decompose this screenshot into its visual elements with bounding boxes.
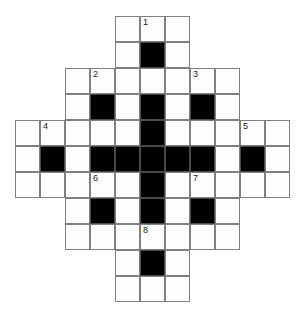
crossword-open-cell[interactable]: [115, 42, 140, 68]
cell-number-6: 6: [93, 173, 98, 184]
crossword-open-cell[interactable]: [265, 120, 290, 146]
crossword-open-cell[interactable]: [215, 146, 240, 172]
crossword-block-cell: [90, 94, 115, 120]
crossword-open-cell[interactable]: [115, 120, 140, 146]
crossword-block-cell: [140, 120, 165, 146]
crossword-open-cell[interactable]: 6: [90, 172, 115, 198]
crossword-open-cell[interactable]: [15, 172, 40, 198]
crossword-open-cell[interactable]: 3: [190, 68, 215, 94]
crossword-open-cell[interactable]: [115, 172, 140, 198]
crossword-open-cell[interactable]: 7: [190, 172, 215, 198]
cell-number-7: 7: [193, 173, 198, 184]
crossword-open-cell[interactable]: [65, 172, 90, 198]
crossword-block-cell: [115, 146, 140, 172]
cell-number-5: 5: [243, 121, 248, 132]
crossword-block-cell: [190, 198, 215, 224]
crossword-open-cell[interactable]: [115, 198, 140, 224]
crossword-block-cell: [140, 94, 165, 120]
crossword-open-cell[interactable]: [165, 68, 190, 94]
cell-number-8: 8: [143, 225, 148, 236]
crossword-grid: 12345678: [0, 0, 305, 314]
crossword-open-cell[interactable]: [215, 224, 240, 250]
crossword-open-cell[interactable]: [165, 94, 190, 120]
crossword-open-cell[interactable]: 5: [240, 120, 265, 146]
crossword-open-cell[interactable]: 1: [140, 16, 165, 42]
crossword-block-cell: [40, 146, 65, 172]
crossword-open-cell[interactable]: [215, 68, 240, 94]
crossword-open-cell[interactable]: [265, 172, 290, 198]
cell-number-4: 4: [43, 121, 48, 132]
crossword-block-cell: [140, 172, 165, 198]
crossword-open-cell[interactable]: [190, 224, 215, 250]
crossword-open-cell[interactable]: [265, 146, 290, 172]
crossword-open-cell[interactable]: [115, 68, 140, 94]
crossword-open-cell[interactable]: [240, 172, 265, 198]
crossword-block-cell: [140, 250, 165, 276]
crossword-open-cell[interactable]: [165, 198, 190, 224]
crossword-open-cell[interactable]: [215, 120, 240, 146]
crossword-open-cell[interactable]: [215, 94, 240, 120]
crossword-open-cell[interactable]: [65, 198, 90, 224]
cell-number-2: 2: [93, 69, 98, 80]
crossword-open-cell[interactable]: [165, 42, 190, 68]
crossword-open-cell[interactable]: [65, 68, 90, 94]
crossword-block-cell: [140, 198, 165, 224]
crossword-open-cell[interactable]: [165, 120, 190, 146]
crossword-puzzle: 12345678: [0, 0, 305, 314]
cell-number-3: 3: [193, 69, 198, 80]
crossword-open-cell[interactable]: [165, 224, 190, 250]
crossword-open-cell[interactable]: [115, 250, 140, 276]
crossword-open-cell[interactable]: [215, 198, 240, 224]
crossword-block-cell: [140, 42, 165, 68]
crossword-open-cell[interactable]: [190, 120, 215, 146]
crossword-open-cell[interactable]: [140, 276, 165, 302]
crossword-block-cell: [190, 146, 215, 172]
crossword-open-cell[interactable]: 4: [40, 120, 65, 146]
crossword-block-cell: [90, 198, 115, 224]
crossword-open-cell[interactable]: [165, 276, 190, 302]
crossword-open-cell[interactable]: 2: [90, 68, 115, 94]
crossword-open-cell[interactable]: [115, 224, 140, 250]
crossword-open-cell[interactable]: [140, 68, 165, 94]
crossword-open-cell[interactable]: [165, 250, 190, 276]
crossword-open-cell[interactable]: [40, 172, 65, 198]
crossword-open-cell[interactable]: [65, 94, 90, 120]
crossword-open-cell[interactable]: [65, 146, 90, 172]
crossword-open-cell[interactable]: [15, 120, 40, 146]
cell-number-1: 1: [143, 17, 148, 28]
crossword-open-cell[interactable]: [65, 224, 90, 250]
crossword-open-cell[interactable]: [65, 120, 90, 146]
crossword-open-cell[interactable]: [115, 16, 140, 42]
crossword-block-cell: [240, 146, 265, 172]
crossword-open-cell[interactable]: [165, 16, 190, 42]
crossword-open-cell[interactable]: [115, 276, 140, 302]
crossword-open-cell[interactable]: [165, 172, 190, 198]
crossword-block-cell: [190, 94, 215, 120]
crossword-block-cell: [165, 146, 190, 172]
crossword-block-cell: [140, 146, 165, 172]
crossword-open-cell[interactable]: [90, 224, 115, 250]
crossword-open-cell[interactable]: [15, 146, 40, 172]
crossword-open-cell[interactable]: 8: [140, 224, 165, 250]
crossword-open-cell[interactable]: [90, 120, 115, 146]
crossword-open-cell[interactable]: [215, 172, 240, 198]
crossword-block-cell: [90, 146, 115, 172]
crossword-open-cell[interactable]: [115, 94, 140, 120]
